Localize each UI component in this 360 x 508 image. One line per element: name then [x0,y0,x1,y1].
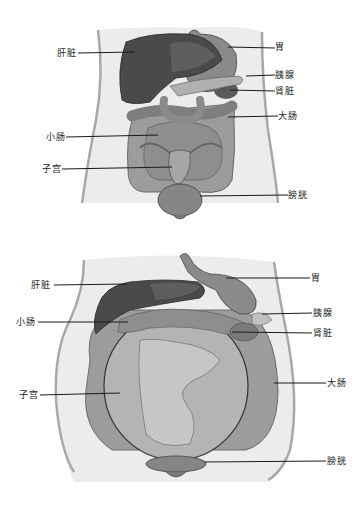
label-small-intestine: 小肠 [46,132,65,142]
figure-non-pregnant: 肝脏 胃 胰腺 肾脏 大肠 小肠 子宫 膀胱 [0,20,360,230]
bladder [146,456,206,472]
label-stomach: 胃 [275,42,285,52]
label-uterus: 子宫 [19,390,38,400]
label-kidney: 肾脏 [275,86,294,96]
label-kidney: 肾脏 [313,328,332,338]
label-uterus: 子宫 [42,164,61,174]
bladder [158,184,202,216]
label-stomach: 胃 [311,273,321,283]
label-pancreas: 胰腺 [275,70,294,80]
top-caption [2,0,182,6]
label-liver: 肝脏 [31,280,50,290]
label-bladder: 膀胱 [327,456,346,466]
label-bladder: 膀胱 [288,190,307,200]
figure-pregnant: 肝脏 胃 胰腺 肾脏 小肠 大肠 子宫 膀胱 [0,250,360,500]
label-small-intestine: 小肠 [16,317,35,327]
label-pancreas: 胰腺 [313,308,332,318]
anatomy-illustration-pregnant [0,250,360,500]
label-large-intestine: 大肠 [327,378,346,388]
label-liver: 肝脏 [57,48,76,58]
label-large-intestine: 大肠 [278,111,297,121]
